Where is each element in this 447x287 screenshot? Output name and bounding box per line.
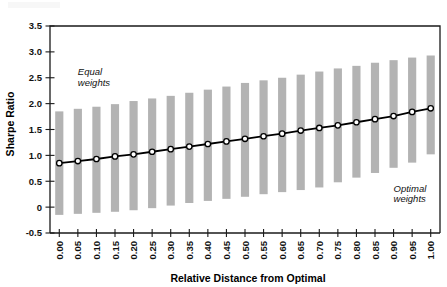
y-tick-label: -0.5 [26, 227, 43, 238]
scan-artifact [8, 2, 60, 8]
data-point-marker [168, 146, 173, 151]
data-point-marker [224, 139, 229, 144]
y-tick-label: 0.5 [29, 176, 43, 187]
y-tick-label: 1.0 [29, 150, 42, 161]
y-tick-label: 3.0 [29, 46, 42, 57]
x-tick-label: 1.00 [425, 241, 436, 260]
y-tick-label: 2.0 [29, 98, 42, 109]
x-tick-label: 0.85 [370, 240, 381, 259]
range-bar [427, 56, 435, 155]
x-tick-label: 0.35 [184, 240, 195, 259]
x-tick-label: 0.90 [388, 241, 399, 260]
data-point-marker [149, 149, 154, 154]
x-tick-label: 0.10 [91, 241, 102, 260]
data-point-marker [94, 156, 99, 161]
data-point-marker [409, 109, 414, 114]
x-tick-label: 0.45 [221, 240, 232, 259]
y-axis-title: Sharpe Ratio [4, 92, 16, 157]
x-tick-label: 0.65 [295, 240, 306, 259]
data-point-marker [187, 144, 192, 149]
x-tick-label: 0.50 [240, 241, 251, 260]
data-point-marker [112, 154, 117, 159]
data-point-marker [317, 125, 322, 130]
x-tick-label: 0.80 [351, 241, 362, 260]
x-axis-title: Relative Distance from Optimal [170, 272, 325, 284]
chart-figure: 3.53.02.52.01.51.00.50-0.5 0.000.050.100… [0, 0, 447, 287]
data-point-marker [335, 123, 340, 128]
x-tick-label: 0.00 [54, 241, 65, 260]
x-tick-label: 0.20 [128, 241, 139, 260]
data-point-marker [298, 128, 303, 133]
y-tick-label: 1.5 [29, 124, 43, 135]
data-point-marker [75, 158, 80, 163]
x-axis-tick-labels: 0.000.050.100.150.200.250.300.350.400.45… [54, 240, 436, 259]
y-tick-label: 2.5 [29, 72, 43, 83]
y-tick-label: 3.5 [29, 20, 43, 31]
data-point-marker [131, 152, 136, 157]
x-tick-label: 0.60 [277, 241, 288, 260]
data-point-marker [391, 113, 396, 118]
data-point-marker [354, 120, 359, 125]
data-point-marker [242, 136, 247, 141]
x-tick-label: 0.95 [407, 240, 418, 259]
y-tick-label: 0 [37, 202, 42, 213]
x-tick-label: 0.25 [147, 240, 158, 259]
x-tick-label: 0.55 [258, 240, 269, 259]
x-tick-label: 0.75 [332, 240, 343, 259]
data-point-marker [205, 141, 210, 146]
data-point-marker [57, 160, 62, 165]
data-point-marker [372, 116, 377, 121]
chart-annotation: Optimalweights [394, 183, 428, 205]
x-tick-label: 0.15 [110, 240, 121, 259]
x-tick-label: 0.40 [202, 241, 213, 260]
x-tick-label: 0.70 [314, 241, 325, 260]
sharpe-ratio-chart: 3.53.02.52.01.51.00.50-0.5 0.000.050.100… [0, 0, 447, 287]
x-tick-label: 0.30 [165, 241, 176, 260]
x-tick-label: 0.05 [72, 240, 83, 259]
data-point-marker [261, 134, 266, 139]
x-axis-ticks [59, 229, 430, 237]
data-point-marker [279, 131, 284, 136]
data-point-marker [428, 106, 433, 111]
